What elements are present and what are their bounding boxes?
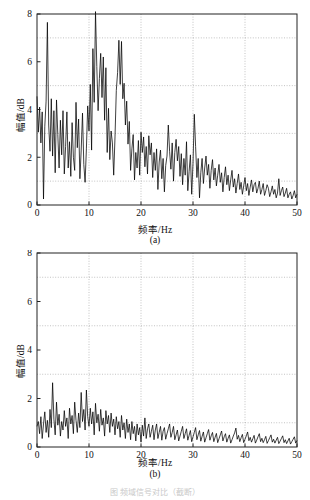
data-trace [37,383,297,444]
x-tick-label: 50 [292,208,302,218]
y-tick-label: 6 [27,57,32,67]
panel-letter-a: (a) [0,235,310,245]
y-tick-label: 0 [27,442,32,452]
spectrum-plot-a: 0102030405002468 [0,0,310,250]
data-trace [37,12,297,199]
x-tick-label: 0 [35,208,40,218]
x-tick-label: 30 [188,208,198,218]
panel-letter-b: (b) [0,469,310,479]
y-tick-label: 4 [27,105,32,115]
y-tick-label: 4 [27,345,32,355]
y-tick-label: 8 [27,9,32,19]
y-tick-label: 0 [27,200,32,210]
y-axis-label-a: 幅值/dB [13,98,27,132]
x-axis-label-b: 频率/Hz [0,455,310,469]
y-tick-label: 2 [27,153,32,163]
x-tick-label: 10 [84,208,94,218]
y-tick-label: 6 [27,297,32,307]
figure-panel-a: 0102030405002468 [0,0,310,250]
y-axis-label-b: 幅值/dB [13,344,27,378]
y-tick-label: 2 [27,394,32,404]
y-tick-label: 8 [27,250,32,258]
x-tick-label: 20 [136,208,146,218]
x-axis-label-a: 频率/Hz [0,222,310,236]
x-tick-label: 40 [240,208,250,218]
figure-caption-partial: 图 频域信号对比（截断） [0,486,310,500]
